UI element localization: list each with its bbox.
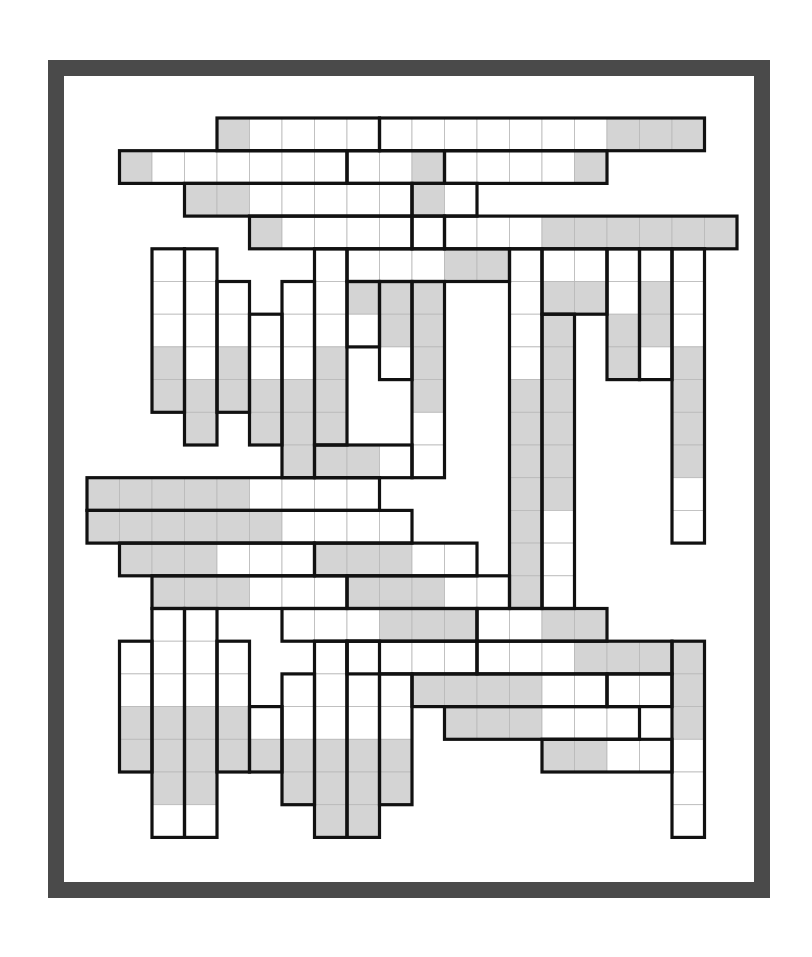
empty-cell[interactable] [152,249,185,282]
shaded-cell[interactable] [640,314,673,347]
empty-cell[interactable] [380,674,413,707]
shaded-cell[interactable] [542,739,575,772]
shaded-cell[interactable] [575,151,608,184]
empty-cell[interactable] [152,609,185,642]
empty-cell[interactable] [510,216,543,249]
empty-cell[interactable] [445,118,478,151]
empty-cell[interactable] [640,347,673,380]
empty-cell[interactable] [185,282,218,315]
empty-cell[interactable] [347,151,380,184]
shaded-cell[interactable] [672,118,705,151]
empty-cell[interactable] [445,216,478,249]
empty-cell[interactable] [315,249,348,282]
shaded-cell[interactable] [250,380,283,413]
shaded-cell[interactable] [607,216,640,249]
shaded-cell[interactable] [445,674,478,707]
shaded-cell[interactable] [412,576,445,609]
shaded-cell[interactable] [152,478,185,511]
shaded-cell[interactable] [607,641,640,674]
shaded-cell[interactable] [87,478,120,511]
shaded-cell[interactable] [120,543,153,576]
shaded-cell[interactable] [315,347,348,380]
shaded-cell[interactable] [607,314,640,347]
empty-cell[interactable] [347,314,380,347]
shaded-cell[interactable] [315,543,348,576]
empty-cell[interactable] [477,641,510,674]
empty-cell[interactable] [315,674,348,707]
shaded-cell[interactable] [282,739,315,772]
empty-cell[interactable] [250,183,283,216]
shaded-cell[interactable] [542,380,575,413]
empty-cell[interactable] [380,641,413,674]
empty-cell[interactable] [445,576,478,609]
empty-cell[interactable] [542,707,575,740]
empty-cell[interactable] [282,707,315,740]
shaded-cell[interactable] [510,707,543,740]
empty-cell[interactable] [217,641,250,674]
empty-cell[interactable] [380,347,413,380]
shaded-cell[interactable] [412,347,445,380]
empty-cell[interactable] [347,707,380,740]
empty-cell[interactable] [380,707,413,740]
empty-cell[interactable] [510,347,543,380]
shaded-cell[interactable] [347,282,380,315]
empty-cell[interactable] [607,282,640,315]
shaded-cell[interactable] [347,772,380,805]
empty-cell[interactable] [672,478,705,511]
empty-cell[interactable] [217,543,250,576]
empty-cell[interactable] [315,707,348,740]
empty-cell[interactable] [477,609,510,642]
empty-cell[interactable] [380,118,413,151]
shaded-cell[interactable] [185,380,218,413]
shaded-cell[interactable] [347,543,380,576]
shaded-cell[interactable] [315,772,348,805]
shaded-cell[interactable] [412,183,445,216]
empty-cell[interactable] [347,510,380,543]
shaded-cell[interactable] [120,510,153,543]
empty-cell[interactable] [217,151,250,184]
empty-cell[interactable] [282,314,315,347]
empty-cell[interactable] [380,249,413,282]
empty-cell[interactable] [282,674,315,707]
shaded-cell[interactable] [185,772,218,805]
shaded-cell[interactable] [445,249,478,282]
empty-cell[interactable] [250,118,283,151]
empty-cell[interactable] [185,674,218,707]
shaded-cell[interactable] [315,739,348,772]
shaded-cell[interactable] [315,445,348,478]
empty-cell[interactable] [412,641,445,674]
empty-cell[interactable] [412,118,445,151]
empty-cell[interactable] [315,641,348,674]
empty-cell[interactable] [250,576,283,609]
empty-cell[interactable] [542,576,575,609]
shaded-cell[interactable] [152,380,185,413]
empty-cell[interactable] [575,707,608,740]
empty-cell[interactable] [510,118,543,151]
empty-cell[interactable] [217,314,250,347]
empty-cell[interactable] [510,282,543,315]
shaded-cell[interactable] [120,151,153,184]
empty-cell[interactable] [152,151,185,184]
empty-cell[interactable] [510,641,543,674]
empty-cell[interactable] [152,641,185,674]
empty-cell[interactable] [542,510,575,543]
shaded-cell[interactable] [607,118,640,151]
shaded-cell[interactable] [542,609,575,642]
empty-cell[interactable] [380,510,413,543]
empty-cell[interactable] [347,674,380,707]
empty-cell[interactable] [282,609,315,642]
shaded-cell[interactable] [542,445,575,478]
shaded-cell[interactable] [412,609,445,642]
empty-cell[interactable] [380,183,413,216]
empty-cell[interactable] [315,183,348,216]
empty-cell[interactable] [347,183,380,216]
empty-cell[interactable] [510,249,543,282]
shaded-cell[interactable] [217,183,250,216]
empty-cell[interactable] [477,216,510,249]
shaded-cell[interactable] [217,576,250,609]
empty-cell[interactable] [477,576,510,609]
shaded-cell[interactable] [217,510,250,543]
empty-cell[interactable] [152,674,185,707]
shaded-cell[interactable] [315,412,348,445]
shaded-cell[interactable] [185,576,218,609]
